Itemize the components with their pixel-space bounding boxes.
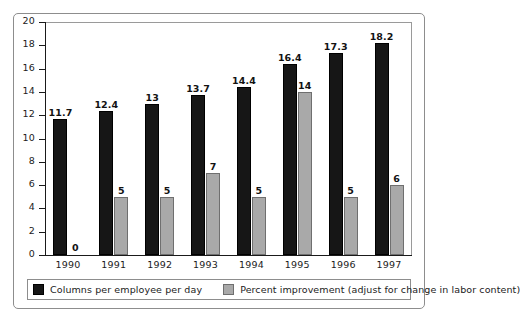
legend-label: Percent improvement (adjust for change i… xyxy=(240,284,520,295)
x-axis-tick-label: 1990 xyxy=(45,259,91,270)
y-axis-tick-label: 16 xyxy=(23,62,40,73)
bar-group: 11.70 xyxy=(53,22,82,255)
y-axis-tick-label: 4 xyxy=(29,201,39,212)
x-axis-line xyxy=(45,255,412,256)
x-axis-tick-label: 1992 xyxy=(137,259,183,270)
bar: 5 xyxy=(114,197,128,255)
y-axis-tick-label: 12 xyxy=(23,108,40,119)
legend-swatch-gray-icon xyxy=(223,284,234,295)
bar-group: 18.26 xyxy=(375,22,404,255)
y-axis-tick-label: 18 xyxy=(23,38,40,49)
bar: 18.2 xyxy=(375,43,389,255)
bar-value-label: 5 xyxy=(256,185,263,196)
bar-value-label: 16.4 xyxy=(278,52,302,63)
bar-group: 16.414 xyxy=(283,22,312,255)
y-axis-tick-label: 0 xyxy=(29,248,39,259)
y-axis-tick-label: 8 xyxy=(29,155,39,166)
y-axis-tick-label: 14 xyxy=(23,85,40,96)
bar-value-label: 14 xyxy=(298,80,311,91)
bar-group: 14.45 xyxy=(237,22,266,255)
bar: 5 xyxy=(160,197,174,255)
bar-value-label: 11.7 xyxy=(49,107,73,118)
y-axis-tick-label: 6 xyxy=(29,178,39,189)
bars-layer: 11.7012.4513513.7714.4516.41417.3518.26 xyxy=(45,22,412,255)
legend-label: Columns per employee per day xyxy=(50,284,202,295)
bar-value-label: 14.4 xyxy=(232,75,256,86)
bar-value-label: 17.3 xyxy=(324,41,348,52)
x-axis-tick-label: 1993 xyxy=(183,259,229,270)
y-axis-tick-label: 10 xyxy=(23,132,40,143)
y-axis-tick: 0 xyxy=(39,255,45,256)
legend-item-percent-improvement: Percent improvement (adjust for change i… xyxy=(223,280,520,299)
bar-value-label: 13.7 xyxy=(186,83,210,94)
legend-swatch-dark-icon xyxy=(33,284,44,295)
y-axis-tick-label: 2 xyxy=(29,225,39,236)
bar-value-label: 5 xyxy=(118,185,125,196)
bar: 13.7 xyxy=(191,95,205,255)
x-axis-tick-label: 1995 xyxy=(274,259,320,270)
legend-item-columns-per-employee: Columns per employee per day xyxy=(33,280,202,299)
bar-value-label: 0 xyxy=(72,242,79,253)
x-axis-tick-label: 1997 xyxy=(366,259,412,270)
bar: 11.7 xyxy=(53,119,67,255)
bar-value-label: 7 xyxy=(210,161,217,172)
x-axis-tick-label: 1994 xyxy=(229,259,275,270)
bar-group: 13.77 xyxy=(191,22,220,255)
bar: 6 xyxy=(390,185,404,255)
bar-value-label: 12.4 xyxy=(94,99,118,110)
bar-value-label: 6 xyxy=(393,173,400,184)
bar: 17.3 xyxy=(329,53,343,255)
bar-value-label: 13 xyxy=(145,92,158,103)
y-axis-tick-label: 20 xyxy=(23,15,40,26)
bar-group: 17.35 xyxy=(329,22,358,255)
bar-value-label: 5 xyxy=(347,185,354,196)
bar: 14.4 xyxy=(237,87,251,255)
bar-value-label: 5 xyxy=(164,185,171,196)
x-axis-tick-label: 1991 xyxy=(91,259,137,270)
bar: 14 xyxy=(298,92,312,255)
chart-legend: Columns per employee per day Percent imp… xyxy=(27,279,411,300)
bar: 5 xyxy=(344,197,358,255)
bar: 13 xyxy=(145,104,159,255)
bar-value-label: 18.2 xyxy=(370,31,394,42)
bar-group: 12.45 xyxy=(99,22,128,255)
x-axis-tick-label: 1996 xyxy=(320,259,366,270)
bar: 7 xyxy=(206,173,220,255)
bar: 12.4 xyxy=(99,111,113,255)
bar: 5 xyxy=(252,197,266,255)
bar: 16.4 xyxy=(283,64,297,255)
bar-group: 135 xyxy=(145,22,174,255)
